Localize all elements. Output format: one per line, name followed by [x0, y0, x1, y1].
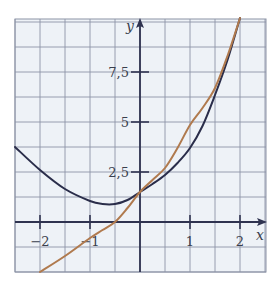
- y-tick-label: 5: [121, 115, 129, 130]
- x-axis-label: x: [256, 227, 264, 243]
- y-tick-label: 2,5: [108, 165, 129, 180]
- y-tick-label: 7,5: [108, 65, 129, 80]
- function-plot: x y −2−1122,557,5: [0, 0, 276, 297]
- x-tick-label: 2: [236, 234, 244, 249]
- y-axis-label: y: [125, 18, 135, 34]
- x-tick-label: 1: [186, 234, 194, 249]
- x-tick-label: −1: [80, 234, 99, 249]
- x-tick-label: −2: [30, 234, 49, 249]
